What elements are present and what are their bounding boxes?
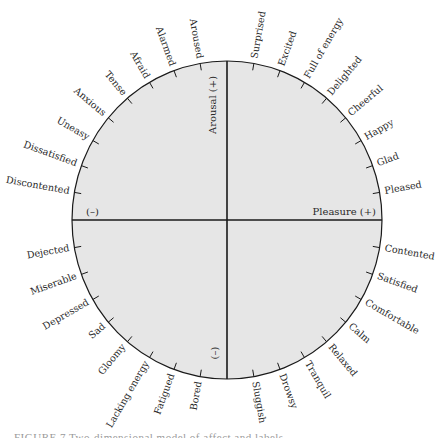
emotion-label: Tense [103,69,130,98]
pleasure-negative-label: (–) [86,206,99,217]
emotion-label: Drowsy [277,372,300,411]
emotion-label: Depressed [41,296,91,331]
emotion-label: Fatigued [152,372,177,416]
emotion-label: Anxious [71,84,108,118]
emotion-label: Satisfied [376,270,420,295]
emotion-label: Gloomy [96,341,128,377]
emotion-label: Pleased [383,179,422,196]
emotion-label: Tranquil [303,359,333,400]
emotion-label: Calm [347,320,373,345]
emotion-label: Discontented [5,174,70,196]
emotion-label: Sad [86,320,107,340]
emotion-label: Miserable [29,270,79,297]
emotion-label: Surprised [248,10,267,59]
emotion-label: Dejected [26,242,70,260]
pleasure-positive-label: Pleasure (+) [313,206,377,217]
emotion-label: Sluggish [250,380,268,424]
arousal-positive-label: Arousal (+) [207,76,218,135]
emotion-label: Aroused [188,17,206,60]
emotion-label: Relaxed [326,341,359,378]
arousal-negative-label: (–) [209,347,220,360]
emotion-label: Alarmed [154,24,179,67]
emotion-label: Afraid [128,48,153,80]
emotion-label: Lacking energy [104,358,152,429]
figure-caption: FIGURE 7 Two-dimensional model of affect… [14,432,334,438]
emotion-label: Full of energy [301,15,345,80]
emotion-label: Bored [188,380,204,411]
emotion-label: Excited [276,29,299,67]
emotion-label: Comfortable [363,296,421,336]
emotion-label: Contented [384,242,436,262]
affect-circumplex-diagram: PleasedGladHappyCheerfulDelightedFull of… [0,0,442,438]
emotion-label: Glad [375,150,400,168]
emotion-label: Happy [362,116,396,142]
emotion-label: Delighted [325,54,364,97]
emotion-label: Cheerful [345,82,384,118]
emotion-label: Uneasy [55,114,92,142]
emotion-label: Dissatisfied [22,138,79,168]
